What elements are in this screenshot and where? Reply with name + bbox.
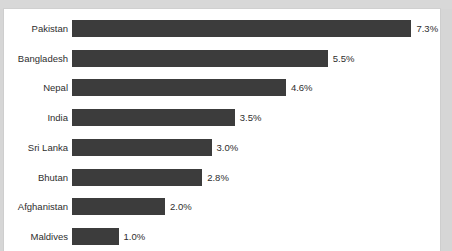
- bar: [72, 20, 411, 37]
- page-top-band: [0, 0, 452, 9]
- value-label: 7.3%: [416, 20, 438, 37]
- category-label: India: [4, 109, 68, 126]
- bar-row: Bangladesh5.5%: [4, 50, 440, 67]
- value-label: 1.0%: [124, 228, 146, 245]
- bar: [72, 139, 212, 156]
- bar-row: Pakistan7.3%: [4, 20, 440, 37]
- category-label: Nepal: [4, 79, 68, 96]
- category-label: Pakistan: [4, 20, 68, 37]
- value-label: 3.5%: [240, 109, 262, 126]
- value-label: 3.0%: [217, 139, 239, 156]
- horizontal-bar-chart: Pakistan7.3%Bangladesh5.5%Nepal4.6%India…: [4, 9, 440, 251]
- value-label: 2.0%: [170, 198, 192, 215]
- category-label: Bangladesh: [4, 50, 68, 67]
- bar-row: Afghanistan2.0%: [4, 198, 440, 215]
- bar: [72, 169, 202, 186]
- chart-card: Pakistan7.3%Bangladesh5.5%Nepal4.6%India…: [4, 9, 440, 251]
- category-label: Afghanistan: [4, 198, 68, 215]
- category-label: Sri Lanka: [4, 139, 68, 156]
- bar: [72, 79, 286, 96]
- bar-row: Maldives1.0%: [4, 228, 440, 245]
- bar: [72, 50, 328, 67]
- value-label: 5.5%: [333, 50, 355, 67]
- bar: [72, 228, 119, 245]
- bar: [72, 109, 235, 126]
- category-label: Bhutan: [4, 169, 68, 186]
- category-label: Maldives: [4, 228, 68, 245]
- bar-row: Sri Lanka3.0%: [4, 139, 440, 156]
- value-label: 4.6%: [291, 79, 313, 96]
- bar-row: Bhutan2.8%: [4, 169, 440, 186]
- bar-row: Nepal4.6%: [4, 79, 440, 96]
- chart-page: Pakistan7.3%Bangladesh5.5%Nepal4.6%India…: [0, 0, 452, 251]
- bar: [72, 198, 165, 215]
- value-label: 2.8%: [207, 169, 229, 186]
- bar-row: India3.5%: [4, 109, 440, 126]
